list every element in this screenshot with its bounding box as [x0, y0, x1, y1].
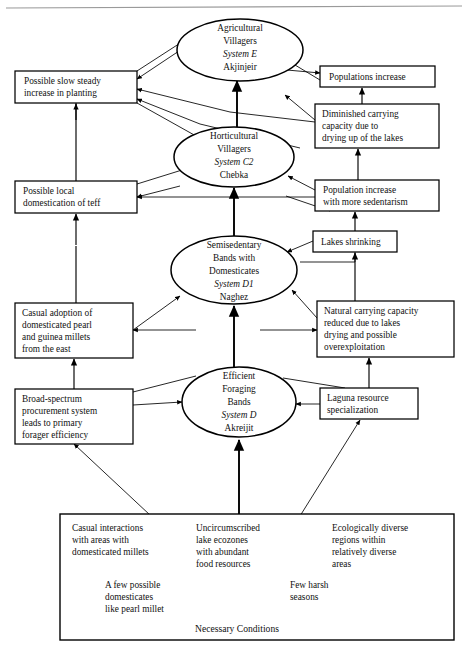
node-site-label: Akjinjeir	[223, 62, 257, 72]
node-label: overexploitation	[324, 342, 385, 352]
node-natural-carrying-capacity[interactable]: Natural carrying capacity reduced due to…	[317, 301, 454, 357]
node-diminished-carrying-capacity[interactable]: Diminished carrying capacity due to dryi…	[315, 104, 439, 148]
node-label: Casual adoption of	[22, 308, 93, 318]
node-system-label: System E	[223, 49, 257, 59]
node-system-d1[interactable]: Semisedentary Bands with Domesticates Sy…	[171, 236, 297, 304]
node-site-label: Chebka	[220, 170, 248, 180]
arrow-diminished-to-planting	[137, 89, 315, 122]
condition-line: with areas with	[72, 535, 129, 545]
condition-line: with abundant	[196, 547, 249, 557]
condition-line: regions within	[332, 535, 386, 545]
node-system-e[interactable]: Agricultural Villagers System E Akjinjei…	[177, 19, 303, 81]
node-broad-spectrum-procurement[interactable]: Broad-spectrum procurement system leads …	[15, 389, 133, 444]
node-label: Possible slow steady	[24, 76, 101, 86]
node-site-label: Akreijit	[225, 423, 254, 433]
node-system-label: System C2	[215, 157, 254, 167]
node-label: from the east	[22, 344, 71, 354]
node-label: Agricultural	[217, 23, 263, 33]
node-label: Domesticates	[209, 266, 259, 276]
node-label: Broad-spectrum	[22, 394, 83, 404]
node-system-label: System D1	[214, 279, 254, 289]
node-label: Bands with	[213, 253, 255, 263]
node-label: domesticated pearl	[22, 320, 92, 330]
figure-canvas: Possible slow steady increase in plantin…	[0, 0, 468, 654]
node-label: Semisedentary	[207, 240, 262, 250]
line-planting-to-system-c2	[137, 103, 196, 136]
node-population-increase-sedentarism[interactable]: Population increase with more sedentaris…	[315, 180, 439, 211]
node-label: Foraging	[222, 384, 256, 394]
flow-diagram: Possible slow steady increase in plantin…	[0, 0, 468, 654]
condition-line: seasons	[290, 592, 319, 602]
node-local-domestication-teff[interactable]: Possible local domestication of teff	[15, 181, 137, 213]
node-populations-increase[interactable]: Populations increase	[320, 66, 435, 87]
node-label: Populations increase	[329, 72, 406, 82]
node-label: Bands	[227, 397, 251, 407]
node-label: forager efficiency	[22, 430, 89, 440]
node-label: domestication of teff	[23, 198, 101, 208]
node-site-label: Naghez	[220, 292, 248, 302]
condition-line: like pearl millet	[105, 604, 164, 614]
arrow-diminished-to-system-e	[285, 95, 315, 120]
node-laguna-resource-specialization[interactable]: Laguna resource specialization	[320, 388, 418, 419]
node-label: leads to primary	[22, 418, 83, 428]
node-label: drying up of the lakes	[322, 133, 403, 143]
node-slow-steady-planting[interactable]: Possible slow steady increase in plantin…	[15, 71, 137, 103]
node-label: and guinea millets	[22, 332, 91, 342]
line-teff-to-system-c2	[137, 170, 182, 184]
condition-line: food resources	[196, 559, 251, 569]
node-label: Natural carrying capacity	[324, 306, 419, 316]
node-lakes-shrinking[interactable]: Lakes shrinking	[313, 231, 397, 252]
top-rule	[6, 6, 462, 8]
system-ellipses: Agricultural Villagers System E Akjinjei…	[171, 19, 303, 437]
node-label: Possible local	[23, 186, 75, 196]
condition-line: A few possible	[105, 580, 160, 590]
node-system-d[interactable]: Efficient Foraging Bands System D Akreij…	[182, 367, 296, 437]
arrow-conditions-to-laguna	[300, 420, 360, 516]
condition-line: Ecologically diverse	[332, 523, 408, 533]
line-lakes-shrinking-down	[300, 252, 355, 262]
node-label: Lakes shrinking	[321, 237, 381, 247]
node-system-label: System D	[222, 410, 257, 420]
condition-line: domesticated millets	[72, 547, 149, 557]
condition-line: lake ecozones	[196, 535, 248, 545]
arrow-millets-to-system-d1	[133, 296, 180, 330]
arrow-natural-capacity-to-system-d1	[292, 290, 317, 318]
node-label: Laguna resource	[327, 393, 389, 403]
condition-line: Uncircumscribed	[196, 523, 260, 533]
node-label: increase in planting	[24, 88, 97, 98]
node-label: specialization	[327, 405, 378, 415]
arrow-system-c2-to-teff	[137, 186, 180, 197]
arrow-lakes-shrinking-to-system-d1	[287, 241, 313, 252]
condition-line: relatively diverse	[332, 547, 396, 557]
node-label: Diminished carrying	[322, 109, 399, 119]
necessary-conditions-caption: Necessary Conditions	[195, 623, 279, 634]
arrow-broad-spectrum-to-system-d	[133, 402, 182, 405]
node-label: Villagers	[223, 36, 257, 46]
node-label: Villagers	[217, 144, 251, 154]
necessary-conditions-box[interactable]: Casual interactions with areas with dome…	[60, 514, 454, 640]
node-label: capacity due to	[322, 121, 379, 131]
condition-line: areas	[332, 559, 351, 569]
node-label: Population increase	[323, 185, 396, 195]
node-label: Efficient	[223, 371, 256, 381]
node-label: Horticultural	[210, 131, 258, 141]
arrow-population-sedentarism-to-system-c2	[288, 176, 315, 190]
node-label: reduced due to lakes	[324, 318, 401, 328]
node-casual-adoption-millets[interactable]: Casual adoption of domesticated pearl an…	[15, 303, 133, 358]
condition-line: Casual interactions	[72, 523, 143, 533]
node-system-c2[interactable]: Horticultural Villagers System C2 Chebka	[174, 127, 294, 187]
arrow-conditions-to-broad-spectrum	[74, 444, 150, 515]
line-system-d-to-laguna	[283, 378, 345, 388]
node-label: drying and possible	[324, 330, 397, 340]
condition-line: Few harsh	[290, 580, 329, 590]
node-label: procurement system	[22, 406, 98, 416]
node-label: with more sedentarism	[323, 197, 408, 207]
condition-line: domesticates	[105, 592, 153, 602]
